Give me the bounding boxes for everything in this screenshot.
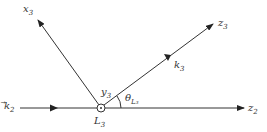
x3-label: x3 bbox=[23, 4, 33, 17]
y3-label: y3 bbox=[101, 87, 111, 100]
z2-label: z2 bbox=[248, 103, 258, 116]
k3-label: k3 bbox=[174, 60, 185, 73]
k2-arrowhead-icon bbox=[50, 105, 58, 112]
origin-label: L3 bbox=[94, 116, 105, 129]
k2-label: ⃗k2 bbox=[4, 101, 15, 114]
angle-label: θL₃ bbox=[125, 93, 139, 106]
z3-axis bbox=[104, 24, 213, 105]
x3-axis bbox=[38, 20, 99, 105]
angle-arc bbox=[117, 96, 121, 108]
z3-label: z3 bbox=[218, 18, 228, 31]
